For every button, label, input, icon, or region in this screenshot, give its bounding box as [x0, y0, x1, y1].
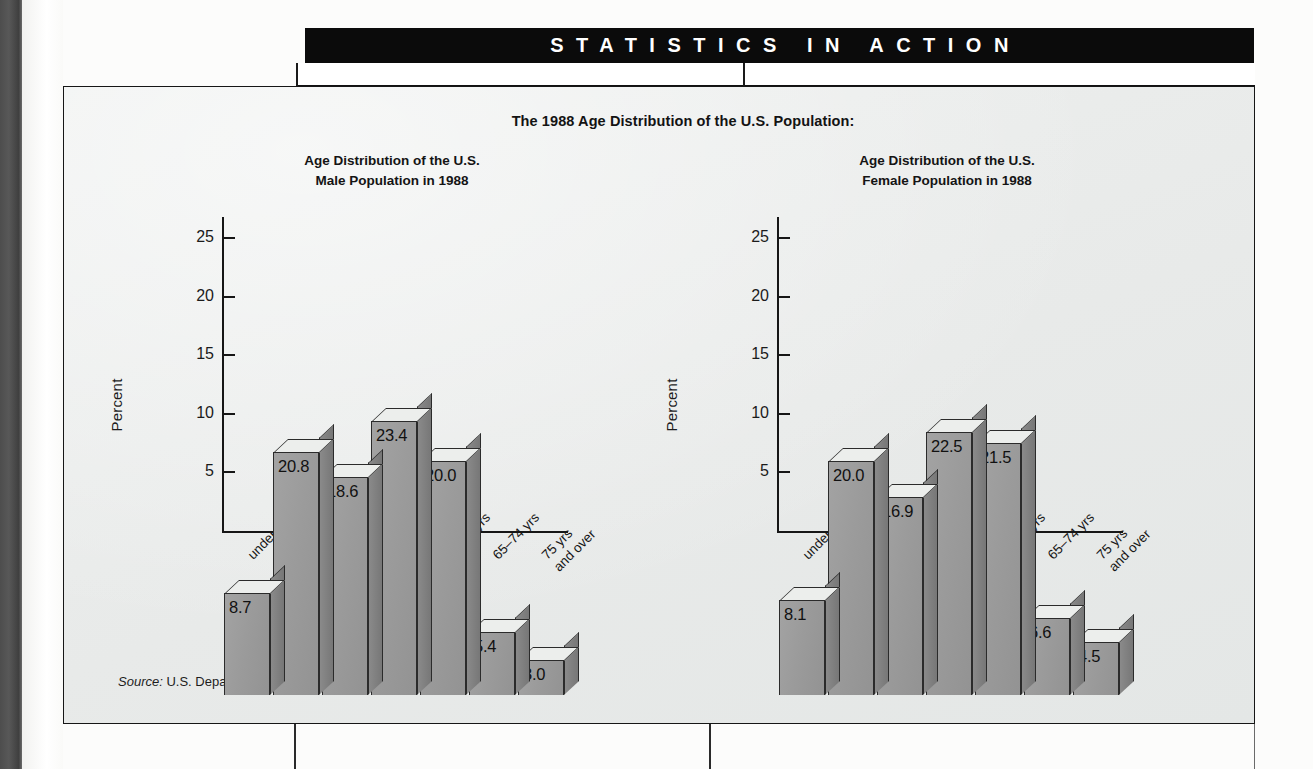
figure-box: The 1988 Age Distribution of the U.S. Po… — [63, 86, 1255, 724]
bar-side-face — [417, 393, 432, 695]
bar-side-face — [466, 433, 481, 695]
bar-side-face — [368, 449, 383, 695]
y-tick-mark — [779, 354, 790, 356]
chart-female-plot: Percent 252015105 8.120.016.922.521.56.6… — [667, 195, 1227, 695]
statistics-in-action-banner: STATISTICS IN ACTION — [305, 28, 1254, 63]
chart-male-title-line1: Age Distribution of the U.S. — [112, 151, 672, 171]
chart-male-title: Age Distribution of the U.S. Male Popula… — [112, 151, 672, 195]
banner-title: STATISTICS IN ACTION — [538, 34, 1021, 57]
column-rule-bottom-right — [709, 724, 711, 769]
bar-value-label: 23.4 — [376, 426, 407, 445]
source-label: Source: — [118, 674, 163, 689]
bar-side-face — [874, 433, 889, 695]
chart-male-ylabel: Percent — [108, 345, 125, 465]
bar-value-label: 20.0 — [833, 466, 864, 485]
y-tick-label-text: 25 — [180, 228, 214, 246]
y-tick-label-text: 15 — [735, 345, 769, 363]
page-left-margin — [22, 0, 63, 769]
y-tick-label-text: 10 — [735, 404, 769, 422]
bar-value-label: 20.8 — [278, 457, 309, 476]
y-tick-label-text: 5 — [735, 462, 769, 480]
y-tick-mark — [779, 237, 790, 239]
page-gutter-shadow — [0, 0, 22, 769]
figure-main-title: The 1988 Age Distribution of the U.S. Po… — [64, 113, 1254, 129]
y-tick-label-text: 20 — [180, 287, 214, 305]
column-rule-bottom-left — [294, 724, 296, 769]
chart-female-title-line1: Age Distribution of the U.S. — [667, 151, 1227, 171]
y-tick-label-text: 20 — [735, 287, 769, 305]
chart-female-ylabel: Percent — [663, 345, 680, 465]
bar-side-face — [515, 604, 530, 695]
bar-side-face — [1021, 415, 1036, 695]
y-tick-label-text: 5 — [180, 462, 214, 480]
column-rule-top-right — [743, 63, 745, 86]
bar-side-face — [1119, 614, 1134, 695]
chart-male-title-line2: Male Population in 1988 — [112, 171, 672, 191]
bar-side-face — [923, 469, 938, 695]
scanned-page: STATISTICS IN ACTION The 1988 Age Distri… — [0, 0, 1313, 769]
banner-underrule — [296, 63, 1255, 86]
bar-side-face — [319, 424, 334, 695]
y-tick-mark — [779, 296, 790, 298]
chart-male: Age Distribution of the U.S. Male Popula… — [112, 151, 672, 696]
y-tick-label-text: 15 — [180, 345, 214, 363]
y-tick-mark — [224, 296, 235, 298]
bar-side-face — [972, 404, 987, 695]
bar: 8.7 — [224, 593, 270, 695]
chart-male-plot: Percent 252015105 8.720.818.623.420.05.4… — [112, 195, 672, 695]
y-tick-label-text: 10 — [180, 404, 214, 422]
y-tick-label-text: 25 — [735, 228, 769, 246]
bar: 8.1 — [779, 600, 825, 695]
page-edge-rule — [1254, 724, 1255, 769]
bar-value-label: 8.1 — [784, 605, 806, 624]
bar-value-label: 22.5 — [931, 437, 962, 456]
chart-female-title: Age Distribution of the U.S. Female Popu… — [667, 151, 1227, 195]
y-tick-mark — [224, 237, 235, 239]
y-tick-mark — [224, 354, 235, 356]
chart-female: Age Distribution of the U.S. Female Popu… — [667, 151, 1227, 696]
bar-value-label: 8.7 — [229, 598, 251, 617]
chart-female-title-line2: Female Population in 1988 — [667, 171, 1227, 191]
column-rule-top-left — [296, 63, 298, 86]
